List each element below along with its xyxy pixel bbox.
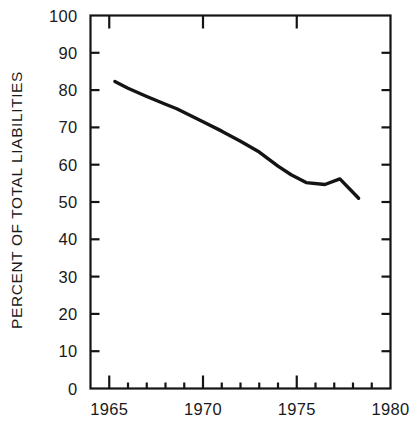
line-chart-plot: 01020304050607080901001965197019751980 — [0, 0, 415, 429]
y-tick-label: 10 — [59, 342, 78, 360]
y-tick-label: 30 — [59, 268, 78, 286]
y-tick-label: 20 — [59, 305, 78, 323]
x-tick-label: 1965 — [90, 400, 128, 418]
y-tick-label: 40 — [59, 230, 78, 248]
y-tick-label: 70 — [59, 118, 78, 136]
y-tick-label: 90 — [59, 44, 78, 62]
plot-frame — [91, 16, 391, 389]
x-tick-label: 1970 — [184, 400, 222, 418]
y-tick-label: 100 — [49, 7, 77, 25]
x-tick-label: 1980 — [372, 400, 410, 418]
y-tick-label: 0 — [68, 380, 77, 398]
x-tick-label: 1975 — [278, 400, 316, 418]
y-tick-label: 80 — [59, 81, 78, 99]
data-line — [115, 82, 359, 199]
y-tick-label: 60 — [59, 156, 78, 174]
y-tick-label: 50 — [59, 193, 78, 211]
chart-figure: PERCENT OF TOTAL LIABILITIES 01020304050… — [0, 0, 415, 429]
